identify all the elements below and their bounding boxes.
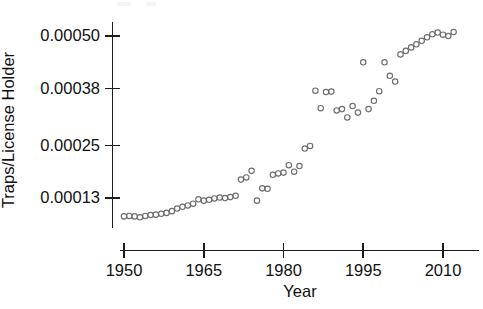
data-point <box>334 108 339 113</box>
x-axis-group: 19501965198019952010 <box>106 243 479 279</box>
data-point <box>377 88 382 93</box>
data-point <box>164 210 169 215</box>
x-axis-tick-labels: 19501965198019952010 <box>106 261 462 279</box>
data-point <box>313 88 318 93</box>
data-point <box>222 195 227 200</box>
data-point <box>361 60 366 65</box>
y-axis-group: 0.000130.000250.000380.00050 <box>40 22 120 228</box>
data-point <box>403 48 408 53</box>
data-point <box>371 98 376 103</box>
data-point <box>254 198 259 203</box>
data-point <box>307 143 312 148</box>
data-point <box>392 79 397 84</box>
y-axis-tick-label: 0.00013 <box>40 188 100 206</box>
data-point <box>169 208 174 213</box>
data-point <box>440 32 445 37</box>
x-axis-title: Year <box>283 282 317 300</box>
data-point <box>291 169 296 174</box>
data-point <box>323 89 328 94</box>
x-axis-tick-label: 2010 <box>425 261 462 279</box>
data-point <box>270 172 275 177</box>
data-points <box>121 29 456 220</box>
data-point <box>339 106 344 111</box>
y-axis-tick-label: 0.00038 <box>40 79 100 97</box>
data-point <box>435 30 440 35</box>
data-point <box>153 212 158 217</box>
data-point <box>190 201 195 206</box>
data-point <box>217 195 222 200</box>
data-point <box>345 115 350 120</box>
data-point <box>424 35 429 40</box>
data-point <box>143 213 148 218</box>
data-point <box>174 206 179 211</box>
data-point <box>228 194 233 199</box>
y-axis-tick-label: 0.00050 <box>40 26 100 44</box>
data-point <box>350 103 355 108</box>
data-point <box>121 214 126 219</box>
data-point <box>260 186 265 191</box>
data-point <box>414 42 419 47</box>
data-point <box>196 197 201 202</box>
data-point <box>249 168 254 173</box>
data-point <box>408 45 413 50</box>
data-point <box>244 175 249 180</box>
data-point <box>318 106 323 111</box>
data-point <box>398 52 403 57</box>
data-point <box>286 162 291 167</box>
data-point <box>329 89 334 94</box>
data-point <box>419 38 424 43</box>
data-point <box>302 146 307 151</box>
data-point <box>355 110 360 115</box>
x-axis-tick-label: 1980 <box>265 261 302 279</box>
x-axis-tick-label: 1965 <box>185 261 222 279</box>
data-point <box>387 73 392 78</box>
x-axis-tick-label: 1995 <box>345 261 382 279</box>
data-point <box>446 33 451 38</box>
x-axis-tick-label: 1950 <box>106 261 143 279</box>
data-point <box>451 29 456 34</box>
data-point <box>430 32 435 37</box>
data-point <box>275 171 280 176</box>
data-point <box>185 203 190 208</box>
data-point <box>137 215 142 220</box>
data-point <box>265 186 270 191</box>
data-point <box>180 204 185 209</box>
scatter-plot: 0.000130.000250.000380.00050 19501965198… <box>0 0 483 309</box>
data-point <box>281 170 286 175</box>
data-point <box>212 196 217 201</box>
data-point <box>238 177 243 182</box>
y-axis-tick-label: 0.00025 <box>40 136 100 154</box>
data-point <box>366 106 371 111</box>
y-axis-tick-labels: 0.000130.000250.000380.00050 <box>40 26 100 206</box>
data-point <box>201 198 206 203</box>
data-point <box>382 60 387 65</box>
chart-page: 0.000130.000250.000380.00050 19501965198… <box>0 0 483 309</box>
data-point <box>148 212 153 217</box>
y-axis-title: Traps/License Holder <box>0 51 17 208</box>
data-point <box>233 193 238 198</box>
data-point <box>132 214 137 219</box>
data-point <box>127 213 132 218</box>
data-point <box>297 163 302 168</box>
data-point <box>159 211 164 216</box>
data-point <box>206 197 211 202</box>
